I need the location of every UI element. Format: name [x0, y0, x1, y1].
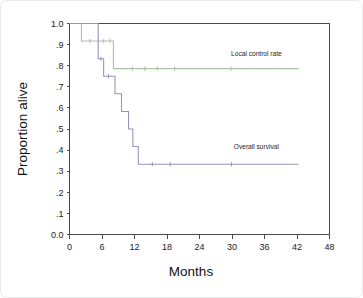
y-tick-label: .6	[56, 103, 64, 113]
y-tick-label: .4	[56, 145, 64, 155]
chart-canvas: 0.0.1.2.3.4.5.6.7.8.91.0 061218243036424…	[1, 1, 363, 298]
plot-frame	[70, 24, 330, 235]
x-tick-label: 48	[324, 242, 334, 252]
y-tick-label: .7	[56, 82, 64, 92]
y-tick-label: .3	[56, 166, 64, 176]
x-tick-label: 42	[292, 242, 302, 252]
y-tick-label: .5	[56, 124, 64, 134]
x-tick-label: 12	[129, 242, 139, 252]
series-label: Overall survival	[234, 143, 280, 150]
x-axis-title: Months	[169, 264, 214, 279]
y-tick-label: .9	[56, 40, 64, 50]
x-tick-label: 24	[194, 242, 204, 252]
y-axis-title: Proportion alive	[15, 82, 30, 176]
x-axis-ticks: 0612182430364248	[67, 235, 335, 252]
y-tick-label: 1.0	[51, 19, 64, 29]
x-tick-label: 36	[259, 242, 269, 252]
x-tick-label: 6	[99, 242, 104, 252]
x-tick-label: 0	[67, 242, 72, 252]
x-tick-label: 30	[227, 242, 237, 252]
y-tick-label: .1	[56, 209, 64, 219]
kaplan-meier-chart: 0.0.1.2.3.4.5.6.7.8.91.0 061218243036424…	[1, 1, 362, 297]
y-tick-label: .2	[56, 188, 64, 198]
y-axis-ticks: 0.0.1.2.3.4.5.6.7.8.91.0	[51, 19, 70, 240]
figure-card: 0.0.1.2.3.4.5.6.7.8.91.0 061218243036424…	[0, 0, 363, 298]
series-label: Local control rate	[231, 50, 282, 57]
x-tick-label: 18	[162, 242, 172, 252]
y-tick-label: 0.0	[51, 230, 64, 240]
y-tick-label: .8	[56, 61, 64, 71]
series-label-layer: Local control rateOverall survival	[231, 50, 282, 150]
